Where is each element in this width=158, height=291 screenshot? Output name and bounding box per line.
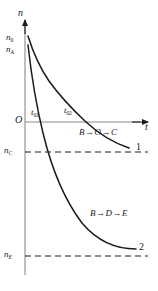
curve-2-number-label: 2	[139, 242, 144, 252]
curve-2-path	[28, 45, 136, 249]
tick-label-ne: nE	[4, 250, 12, 259]
figure-container: n t O n0 nA nC nE t01 t02 B→O→C B→D→E 1 …	[0, 0, 158, 291]
x-axis-label: t	[145, 122, 148, 132]
tick-label-na: nA	[6, 45, 14, 54]
tick-label-n0: n0	[6, 33, 13, 42]
origin-label: O	[15, 115, 22, 125]
tick-label-nc: nC	[4, 146, 12, 155]
plot-canvas	[0, 0, 158, 291]
y-axis-label: n	[18, 8, 23, 18]
tick-label-t02: t02	[64, 106, 72, 115]
curve-1-number-label: 1	[136, 142, 141, 152]
tick-label-t01: t01	[31, 108, 39, 117]
curve-2-path-annotation: B→D→E	[90, 209, 128, 218]
curve-1-path-annotation: B→O→C	[79, 128, 117, 137]
